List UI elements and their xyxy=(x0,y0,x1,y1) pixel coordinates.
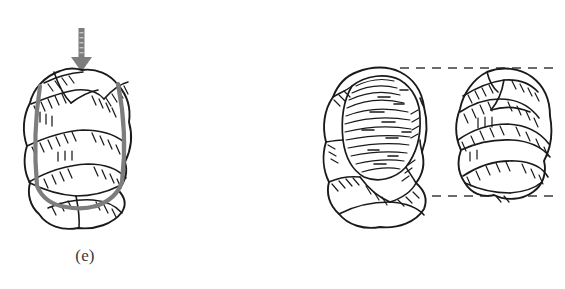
figure-root: (e) xyxy=(0,0,565,289)
panel-f: Core Flake (f) xyxy=(282,0,565,289)
detached-flake xyxy=(456,69,551,202)
percussion-arrow-icon xyxy=(71,28,92,72)
panel-caption-e: (e) xyxy=(0,247,170,264)
panel-e: (e) xyxy=(0,0,282,289)
panel-e-drawing xyxy=(0,0,282,289)
panel-f-drawing xyxy=(282,0,565,289)
core-stone xyxy=(324,68,427,228)
